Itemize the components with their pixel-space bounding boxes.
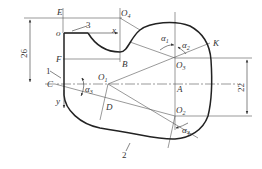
label-O1: O1 bbox=[98, 72, 108, 83]
engineering-drawing: E o F C B A D K x y O1 O2 O3 O4 α1 α2 α3… bbox=[0, 0, 262, 169]
label-alpha2: α2 bbox=[182, 40, 190, 51]
dimension-22: 22 bbox=[236, 83, 246, 92]
alpha3-arc bbox=[81, 78, 84, 96]
label-alpha1: α1 bbox=[161, 33, 169, 44]
callout-1: 1 bbox=[46, 66, 51, 76]
label-y-axis: y bbox=[55, 96, 60, 106]
callout-3: 3 bbox=[86, 20, 91, 30]
label-O4: O4 bbox=[121, 8, 131, 19]
leader-3 bbox=[72, 26, 87, 31]
label-O2: O2 bbox=[176, 105, 186, 116]
alpha1-arc bbox=[160, 45, 174, 50]
label-alpha3: α3 bbox=[85, 84, 93, 95]
label-F: F bbox=[55, 54, 62, 64]
label-o: o bbox=[56, 28, 61, 38]
label-O3: O3 bbox=[176, 60, 186, 71]
label-B: B bbox=[122, 59, 128, 69]
label-E: E bbox=[56, 7, 63, 17]
label-x-axis: x bbox=[111, 25, 116, 35]
leader-2 bbox=[126, 143, 130, 151]
label-A: A bbox=[176, 84, 183, 94]
label-alpha4: α4 bbox=[182, 125, 190, 136]
label-D: D bbox=[105, 102, 113, 112]
label-K: K bbox=[212, 38, 220, 48]
cam-profile-drawing: E o F C B A D K x y O1 O2 O3 O4 α1 α2 α3… bbox=[0, 0, 262, 169]
dimension-26: 26 bbox=[19, 49, 29, 59]
profile-outline bbox=[64, 23, 212, 140]
label-C: C bbox=[47, 79, 54, 89]
leader-1 bbox=[50, 71, 61, 78]
callout-2: 2 bbox=[122, 150, 127, 160]
